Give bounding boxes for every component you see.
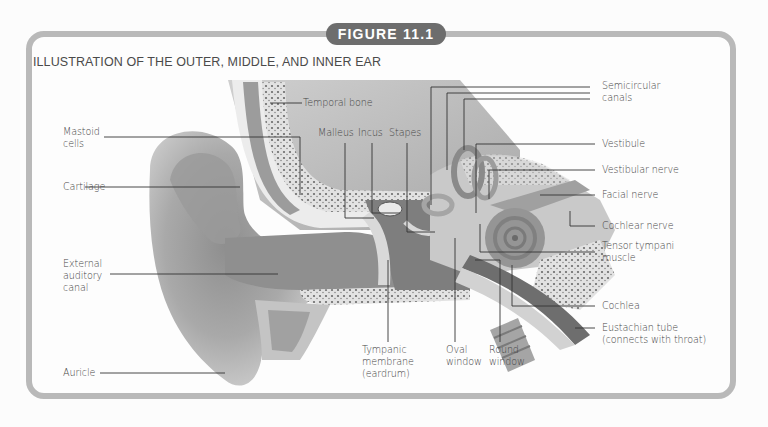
- label-temporal-bone: Temporal bone: [303, 97, 373, 109]
- label-semicircular-canals: Semicircular canals: [602, 80, 660, 104]
- label-facial-nerve: Facial nerve: [602, 189, 658, 201]
- label-eustachian-tube: Eustachian tube (connects with throat): [602, 322, 706, 346]
- label-stapes: Stapes: [389, 127, 421, 139]
- label-cochlear-nerve: Cochlear nerve: [602, 220, 673, 232]
- label-round-window: Round window: [489, 344, 525, 368]
- figure-title: ILLUSTRATION OF THE OUTER, MIDDLE, AND I…: [33, 55, 381, 69]
- label-tympanic-membrane: Tympanic membrane (eardrum): [362, 344, 414, 380]
- label-external-auditory-canal: External auditory canal: [63, 258, 102, 294]
- figure-badge: FIGURE 11.1: [326, 23, 446, 45]
- label-cartilage: Cartilage: [63, 181, 105, 193]
- label-vestibular-nerve: Vestibular nerve: [602, 164, 679, 176]
- ear-canal: [225, 232, 395, 290]
- label-tensor-tympani-muscle: Tensor tympani muscle: [602, 240, 674, 264]
- label-vestibule: Vestibule: [602, 138, 645, 150]
- label-mastoid-cells: Mastoid cells: [63, 126, 100, 150]
- label-incus: Incus: [358, 127, 383, 139]
- label-oval-window: Oval window: [446, 344, 482, 368]
- label-auricle: Auricle: [63, 367, 95, 379]
- label-malleus: Malleus: [318, 127, 354, 139]
- malleus-incus: [378, 202, 402, 216]
- label-cochlea: Cochlea: [602, 300, 640, 312]
